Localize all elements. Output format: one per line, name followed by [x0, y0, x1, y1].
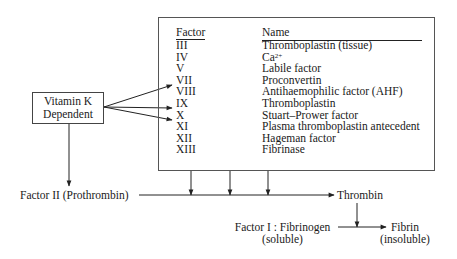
vitamin-k-line1: Vitamin K: [33, 95, 103, 108]
header-factor: Factor: [176, 26, 205, 40]
fibrinogen-line2: (soluble): [232, 233, 333, 245]
factor-cell: XI: [176, 121, 196, 133]
thrombin-label: Thrombin: [337, 189, 383, 201]
prothrombin-label: Factor II (Prothrombin): [20, 189, 129, 201]
fibrin-label: Fibrin (insoluble): [378, 221, 432, 245]
fibrin-line1: Fibrin: [378, 221, 432, 233]
factor-column: III IV V VII VIII IX X XI XII XIII: [176, 40, 196, 156]
name-cell: Fibrinase: [262, 144, 420, 156]
factor-cell: III: [176, 40, 196, 52]
vitamin-k-dependent-box: Vitamin K Dependent: [32, 92, 104, 124]
factor-cell: IX: [176, 98, 196, 110]
name-cell: Thromboplastin (tissue): [262, 40, 420, 52]
fibrin-line2: (insoluble): [378, 233, 432, 245]
name-cell: Plasma thromboplastin antecedent: [262, 121, 420, 133]
fibrinogen-label: Factor I : Fibrinogen (soluble): [232, 221, 333, 245]
name-cell: Thromboplastin: [262, 98, 420, 110]
header-name: Name: [262, 26, 289, 39]
superscript-charge: 2+: [275, 52, 282, 60]
factor-cell: XIII: [176, 144, 196, 156]
fibrinogen-line1: Factor I : Fibrinogen: [232, 221, 333, 233]
name-column: Thromboplastin (tissue) Ca2+ Labile fact…: [262, 40, 420, 156]
vitamin-k-line2: Dependent: [33, 108, 103, 121]
name-cell-text: Ca: [262, 51, 275, 63]
